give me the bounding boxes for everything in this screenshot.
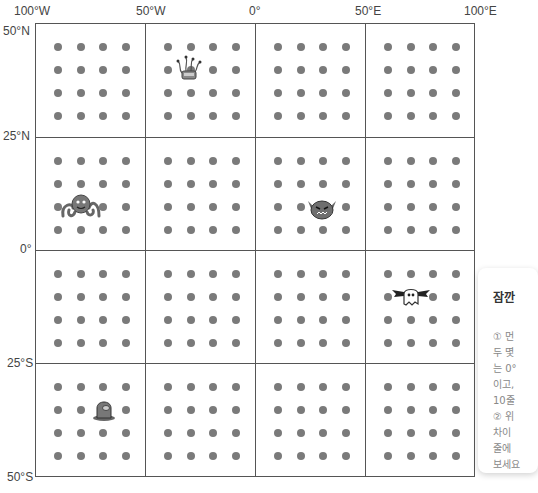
grid-dot bbox=[429, 89, 437, 97]
grid-dot bbox=[342, 43, 350, 51]
grid-dot bbox=[384, 383, 392, 391]
grid-dot bbox=[209, 293, 217, 301]
grid-dot bbox=[384, 66, 392, 74]
grid-dot bbox=[407, 452, 415, 460]
grid-dot bbox=[77, 226, 85, 234]
grid-dot bbox=[342, 339, 350, 347]
grid-dot bbox=[342, 89, 350, 97]
grid-dot bbox=[407, 66, 415, 74]
grid-dot bbox=[77, 66, 85, 74]
grid-dot bbox=[274, 339, 282, 347]
grid-dot bbox=[319, 157, 327, 165]
grid-dot bbox=[164, 339, 172, 347]
longitude-label-100e: 100°E bbox=[464, 4, 497, 18]
grid-dot bbox=[274, 429, 282, 437]
grid-dot bbox=[407, 339, 415, 347]
grid-dot bbox=[274, 43, 282, 51]
latitude-label-50n: 50°N bbox=[3, 24, 30, 38]
grid-dot bbox=[274, 270, 282, 278]
grid-dot bbox=[452, 406, 460, 414]
grid-dot bbox=[99, 89, 107, 97]
latitude-label-25n: 25°N bbox=[3, 129, 30, 143]
grid-dot bbox=[429, 270, 437, 278]
grid-dot bbox=[342, 429, 350, 437]
grid-dot bbox=[209, 339, 217, 347]
grid-dot bbox=[342, 270, 350, 278]
grid-dot bbox=[297, 157, 305, 165]
grid-dot bbox=[122, 270, 130, 278]
grid-dot bbox=[274, 293, 282, 301]
grid-dot bbox=[407, 383, 415, 391]
grid-dot bbox=[77, 180, 85, 188]
grid-dot bbox=[319, 66, 327, 74]
grid-dot bbox=[429, 452, 437, 460]
grid-dot bbox=[274, 383, 282, 391]
grid-dot bbox=[319, 89, 327, 97]
grid-dot bbox=[342, 203, 350, 211]
grid-dot bbox=[297, 383, 305, 391]
grid-dot bbox=[232, 89, 240, 97]
grid-dot bbox=[274, 203, 282, 211]
grid-dot bbox=[429, 112, 437, 120]
grid-dot bbox=[187, 270, 195, 278]
grid-dot bbox=[297, 316, 305, 324]
grid-dot bbox=[164, 429, 172, 437]
grid-dot bbox=[209, 316, 217, 324]
grid-dot bbox=[99, 157, 107, 165]
grid-dot bbox=[274, 180, 282, 188]
grid-dot bbox=[54, 270, 62, 278]
grid-dot bbox=[297, 89, 305, 97]
grid-dot bbox=[452, 43, 460, 51]
grid-dot bbox=[54, 157, 62, 165]
grid-dot bbox=[429, 43, 437, 51]
grid-dot bbox=[232, 157, 240, 165]
grid-dot bbox=[122, 43, 130, 51]
latitude-label-50s: 50°S bbox=[7, 470, 33, 484]
grid-dot bbox=[54, 180, 62, 188]
grid-dot bbox=[319, 112, 327, 120]
parallel-25s bbox=[35, 363, 475, 364]
grid-dot bbox=[232, 406, 240, 414]
grid-dot bbox=[77, 406, 85, 414]
grid-dot bbox=[384, 316, 392, 324]
grid-dot bbox=[164, 452, 172, 460]
grid-dot bbox=[384, 180, 392, 188]
grid-dot bbox=[429, 383, 437, 391]
grid-dot bbox=[407, 429, 415, 437]
grid-dot bbox=[297, 339, 305, 347]
grid-dot bbox=[209, 406, 217, 414]
longitude-label-50w: 50°W bbox=[136, 4, 165, 18]
grid-dot bbox=[342, 452, 350, 460]
grid-dot bbox=[384, 112, 392, 120]
octopus-icon[interactable] bbox=[59, 190, 103, 220]
grid-dot bbox=[209, 43, 217, 51]
grid-dot bbox=[274, 406, 282, 414]
grid-dot bbox=[407, 316, 415, 324]
grid-dot bbox=[54, 293, 62, 301]
horned-monster-icon[interactable] bbox=[306, 197, 338, 221]
grid-dot bbox=[209, 157, 217, 165]
grid-dot bbox=[99, 429, 107, 437]
grid-dot bbox=[209, 226, 217, 234]
grid-dot bbox=[297, 66, 305, 74]
grid-dot bbox=[384, 452, 392, 460]
side-panel-title: 잠깐 bbox=[493, 288, 515, 305]
grid-dot bbox=[187, 406, 195, 414]
grid-dot bbox=[122, 157, 130, 165]
grid-dot bbox=[99, 270, 107, 278]
bat-ghost-icon[interactable] bbox=[390, 284, 432, 310]
grid-dot bbox=[232, 270, 240, 278]
grid-dot bbox=[274, 316, 282, 324]
tentacle-robot-icon[interactable] bbox=[172, 53, 206, 81]
grid-dot bbox=[99, 293, 107, 301]
grid-dot bbox=[452, 180, 460, 188]
grid-dot bbox=[77, 89, 85, 97]
grid-dot bbox=[429, 406, 437, 414]
helmet-blob-icon[interactable] bbox=[92, 398, 116, 422]
grid-dot bbox=[407, 89, 415, 97]
grid-dot bbox=[384, 89, 392, 97]
grid-dot bbox=[209, 203, 217, 211]
grid-dot bbox=[232, 339, 240, 347]
parallel-25n bbox=[35, 137, 475, 138]
grid-dot bbox=[319, 226, 327, 234]
